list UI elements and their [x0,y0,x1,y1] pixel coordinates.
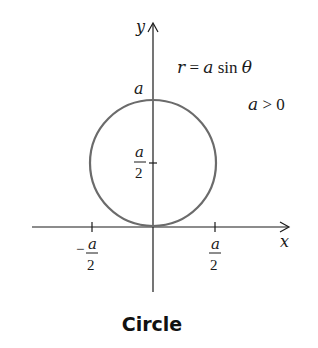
mid-fraction-num: a [135,143,144,161]
neg-fraction-den: 2 [87,257,95,273]
caption: Circle [122,313,183,335]
pos-fraction-den: 2 [210,257,218,273]
top-a-label: a [134,79,144,98]
y-axis-label: y [135,17,146,36]
neg-sign: − [76,241,84,257]
polar-circle-diagram: y x r = a sin θ a > 0 a a 2 − a 2 a 2 Ci… [0,0,318,348]
condition-label: a > 0 [248,94,285,114]
equation-label: r = a sin θ [177,57,252,77]
pos-fraction-num: a [211,235,220,253]
neg-fraction-num: a [88,235,97,253]
mid-fraction-den: 2 [135,165,143,181]
x-axis-label: x [280,232,289,251]
